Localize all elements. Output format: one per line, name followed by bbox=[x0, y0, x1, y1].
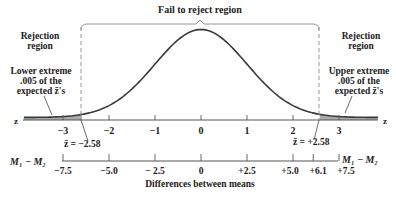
diff-axis-title: Differences between means bbox=[145, 179, 255, 189]
lower-extreme-label: Lower extreme .005 of the expected z̄'s bbox=[6, 66, 76, 96]
lower-extreme-line2: .005 of the bbox=[6, 76, 76, 86]
z-tick-label: −3 bbox=[58, 125, 69, 136]
lower-extreme-line3: expected z̄'s bbox=[6, 86, 76, 96]
diff-axis-label-right: M₁ − M₂ bbox=[341, 154, 378, 165]
z-axis-label-right: z bbox=[383, 116, 387, 126]
upper-extreme-label: Upper extreme .005 of the expected z̄'s bbox=[322, 66, 396, 96]
z-tick-label: −1 bbox=[150, 125, 161, 136]
right-region-title-line1: Rejection bbox=[336, 31, 386, 41]
critical-low-pointer bbox=[81, 120, 88, 141]
fail-to-reject-title: Fail to reject region bbox=[158, 4, 242, 15]
upper-extreme-line1: Upper extreme bbox=[322, 66, 396, 76]
diff-tick-label: +5.0 bbox=[281, 166, 299, 176]
upper-tail-pointer bbox=[345, 96, 352, 113]
diff-axis-label-left: M₁ − M₂ bbox=[9, 156, 46, 167]
diff-tick-label: − 2.5 bbox=[145, 166, 165, 176]
z-axis-ticks: −3−2−10123 bbox=[58, 115, 342, 136]
diff-tick-label: +2.5 bbox=[238, 166, 256, 176]
z-tick-label: 2 bbox=[291, 125, 296, 136]
fail-to-reject-bracket bbox=[81, 20, 319, 30]
z-tick-label: −2 bbox=[104, 125, 115, 136]
left-rejection-region-label: Rejection region bbox=[18, 31, 62, 51]
diff-tick-label: −5.0 bbox=[100, 166, 118, 176]
upper-extreme-line3: expected z̄'s bbox=[322, 86, 396, 96]
left-region-title-line2: region bbox=[18, 41, 62, 51]
critical-low-label: z̄ = −2.58 bbox=[64, 139, 101, 149]
diff-tick-label: 0 bbox=[199, 166, 204, 176]
critical-high-label: z̄ = +2.58 bbox=[293, 137, 330, 147]
z-tick-label: 1 bbox=[245, 125, 250, 136]
lower-extreme-line1: Lower extreme bbox=[6, 66, 76, 76]
z-tick-label: 3 bbox=[337, 125, 342, 136]
lower-tail-pointer bbox=[44, 96, 52, 115]
z-axis-label-left: z bbox=[14, 116, 18, 126]
right-rejection-region-label: Rejection region bbox=[336, 31, 386, 51]
upper-extreme-line2: .005 of the bbox=[322, 76, 396, 86]
normal-distribution-diagram: −3−2−10123 z z z̄ = −2.58 z̄ = +2.58 −7.… bbox=[0, 0, 396, 199]
left-region-title-line1: Rejection bbox=[18, 31, 62, 41]
diff-tick-label: −7.5 bbox=[54, 166, 72, 176]
diff-axis-ticks: −7.5−5.0− 2.50+2.5+5.0+6.1+7.5 bbox=[54, 154, 355, 176]
diagram-svg: −3−2−10123 z z z̄ = −2.58 z̄ = +2.58 −7.… bbox=[0, 0, 396, 199]
right-region-title-line2: region bbox=[336, 41, 386, 51]
z-tick-label: 0 bbox=[199, 125, 204, 136]
diff-tick-label: +6.1 bbox=[310, 166, 328, 176]
diff-tick-label: +7.5 bbox=[337, 166, 355, 176]
